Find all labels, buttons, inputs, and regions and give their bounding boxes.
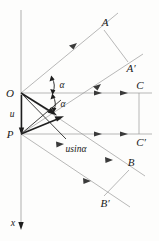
angle-arc-lower-arrowhead-top (51, 94, 56, 100)
vector-P-to-foot (21, 118, 60, 134)
upper-ray-bundle (21, 13, 143, 134)
arrowhead-O-C-1 (94, 90, 102, 95)
arrowhead-P-Cprime-2 (120, 131, 128, 136)
label-x-axis: x (10, 217, 16, 228)
arrowhead-ray-O-B (105, 157, 113, 163)
angle-arc-upper-arrowhead-top (50, 76, 55, 82)
arrowhead-ray-P-Bprime (83, 178, 91, 184)
figure-canvas: O P A A′ B B′ C C′ u usinα α α x (0, 0, 159, 241)
arrowhead-ray-P-Aprime (93, 84, 101, 91)
angle-arc-upper-arrowhead-bottom (50, 89, 55, 95)
arrowhead-P-Cprime-1 (94, 131, 102, 136)
construction-segments (19, 93, 66, 139)
construction-line-O-down (21, 93, 66, 139)
label-O: O (6, 87, 14, 99)
label-usin-alpha: usinα (66, 144, 88, 154)
wavefront-A-Aprime (104, 30, 128, 62)
geometry-figure: O P A A′ B B′ C C′ u usinα α α x (0, 0, 159, 241)
label-C: C (136, 79, 144, 91)
label-B: B (128, 156, 135, 168)
x-axis-arrowhead (18, 222, 23, 230)
vector-O-to-foot (21, 93, 53, 113)
arrowhead-O-C-2 (120, 90, 128, 95)
arrowhead-usin-alpha (56, 142, 64, 148)
label-alpha-upper: α (60, 80, 66, 90)
label-C-prime: C′ (136, 136, 146, 148)
wavefront-B-Bprime (104, 170, 129, 196)
arrowhead-ray-O-A (69, 43, 77, 50)
label-alpha-lower: α (61, 99, 67, 109)
label-A-prime: A′ (125, 62, 136, 74)
label-A: A (101, 16, 109, 28)
label-u: u (10, 109, 15, 119)
label-B-prime: B′ (100, 197, 110, 209)
label-P: P (6, 128, 14, 140)
